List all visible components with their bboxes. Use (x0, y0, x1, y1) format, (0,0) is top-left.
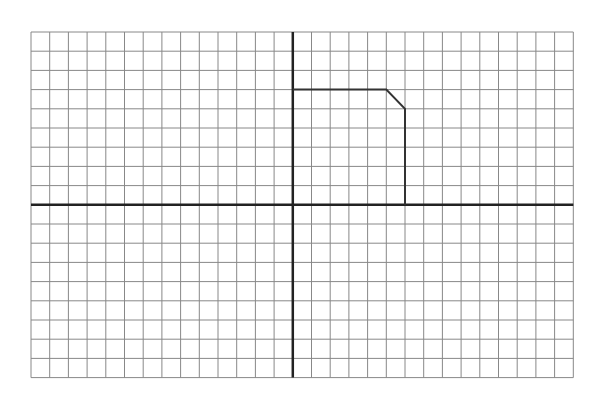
axes (31, 32, 573, 378)
coordinate-grid (0, 0, 602, 400)
